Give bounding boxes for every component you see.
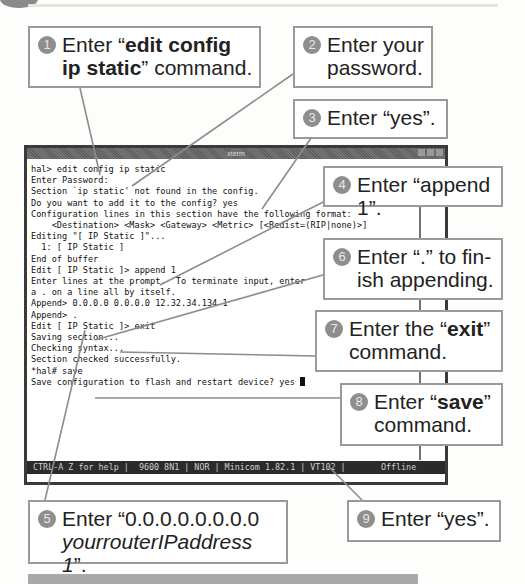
step-number-badge: 2 [303, 36, 321, 54]
terminal-line: Save configuration to flash and restart … [31, 377, 300, 387]
step-number-badge: 4 [333, 176, 351, 194]
terminal-line: <Destination> <Mask> <Gateway> <Metric> … [31, 220, 445, 231]
callout-step-1: 1 Enter “edit config ip static” command. [28, 26, 261, 88]
close-icon[interactable] [436, 149, 443, 156]
maximize-icon[interactable] [427, 149, 434, 156]
step-number-badge: 6 [333, 248, 351, 266]
step-number-badge: 1 [38, 36, 56, 54]
text-cursor [300, 377, 305, 386]
callout-step-4: 4 Enter “append 1”. [323, 166, 503, 207]
placeholder-text: yourrouterIPaddress 1 [62, 530, 252, 576]
callout-step-8: 8 Enter “save” command. [340, 383, 503, 446]
step-number-badge: 3 [303, 109, 321, 127]
command-text: save [437, 390, 484, 413]
terminal-title-bar[interactable]: xterm [27, 148, 445, 159]
callout-step-7: 7 Enter the “exit” command. [315, 310, 503, 372]
step-number-badge: 7 [325, 320, 343, 338]
callout-step-2: 2 Enter your password. [293, 26, 433, 88]
callout-step-9: 9 Enter “yes”. [347, 500, 501, 542]
terminal-line: Append> 0.0.0.0 0.0.0.0 12.32.34.134 1 [31, 298, 445, 309]
window-controls [418, 149, 443, 156]
step-number-badge: 8 [350, 393, 368, 411]
callout-step-5: 5 Enter “0.0.0.0.0.0.0.0yourrouterIPaddr… [28, 500, 288, 564]
header-rule [28, 4, 498, 7]
terminal-title: xterm [227, 150, 245, 157]
command-text: exit [447, 317, 483, 340]
minimize-icon[interactable] [418, 149, 425, 156]
step-number-badge: 9 [357, 510, 375, 528]
minicom-status-bar: CTRL-A Z for help | 9600 8N1 | NOR | Min… [27, 461, 445, 474]
callout-step-6: 6 Enter “.” to fin-ish appending. [323, 238, 503, 300]
callout-step-3: 3 Enter “yes”. [293, 99, 448, 139]
step-number-badge: 5 [38, 510, 56, 528]
